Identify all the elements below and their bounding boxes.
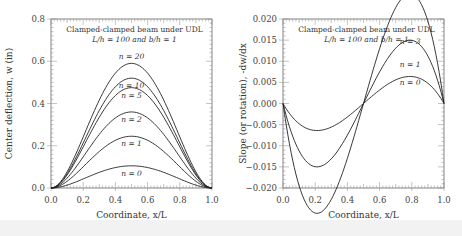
y-tick-label: 0.015 [253,35,277,45]
y-tick-label: 0.6 [31,56,45,66]
x-tick-label: 0.0 [276,195,290,205]
y-axis-title: Slope (or rotation), -dw/dx [238,43,248,164]
x-tick-label: 0.8 [173,195,187,205]
x-tick-label: 0.8 [405,195,419,205]
chart-canvas: 0.00.20.40.60.81.00.00.20.40.60.8Coordin… [0,0,462,236]
series-label: n = 0 [400,78,421,87]
x-tick-label: 0.0 [44,195,58,205]
x-tick-label: 0.2 [308,195,322,205]
x-axis-title: Coordinate, x/L [328,210,399,220]
x-tick-label: 1.0 [437,195,451,205]
series-label: n = 5 [121,91,142,100]
series-label: n = 10 [119,81,145,90]
y-tick-label: −0.010 [246,141,277,151]
series-label: n = 1 [121,139,142,148]
chart-subtitle: L/h = 100 and b/h = 1 [323,35,409,44]
y-tick-label: 0.005 [253,77,277,87]
y-tick-label: 0.020 [253,14,277,24]
y-tick-label: 0.010 [253,56,277,66]
chart-title: Clamped-clamped beam under UDL [298,25,434,34]
y-tick-label: 0.4 [31,99,45,109]
series-label: n = 3 [400,37,421,46]
x-tick-label: 1.0 [205,195,219,205]
y-axis-title: Center deflection, w (in) [4,48,14,159]
x-tick-label: 0.6 [141,195,155,205]
y-tick-label: −0.015 [246,162,277,172]
series-label: n = 20 [119,52,145,61]
y-tick-label: 0.8 [31,14,45,24]
x-axis-title: Coordinate, x/L [96,210,167,220]
chart-title: Clamped-clamped beam under UDL [66,25,202,34]
deflection-plot: 0.00.20.40.60.81.00.00.20.40.60.8Coordin… [4,14,219,220]
y-tick-label: 0.0 [31,183,45,193]
y-tick-label: −0.005 [246,120,277,130]
x-tick-label: 0.4 [341,195,355,205]
x-tick-label: 0.4 [109,195,123,205]
slope-plot: 0.00.20.40.60.81.00.0200.0150.0100.0050.… [238,0,451,220]
series-label: n = 1 [400,60,421,69]
y-tick-label: 0.2 [31,141,45,151]
chart-subtitle: L/h = 100 and b/h = 1 [91,35,177,44]
y-tick-label: 0.000 [253,99,277,109]
x-tick-label: 0.6 [373,195,387,205]
y-tick-label: −0.020 [246,183,277,193]
x-tick-label: 0.2 [76,195,90,205]
series-label: n = 2 [121,115,142,124]
series-label: n = 0 [121,169,142,178]
